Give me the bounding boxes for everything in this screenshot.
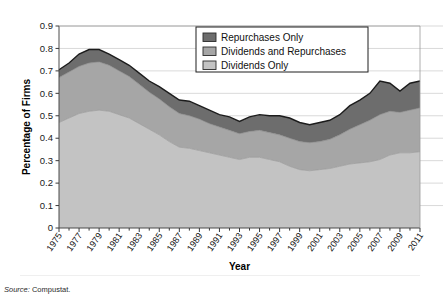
figure-container: 00.10.20.30.40.50.60.70.80.9Percentage o… (0, 0, 443, 305)
x-tick-label: 1999 (285, 231, 305, 253)
x-tick-label: 2001 (305, 231, 325, 253)
legend-swatch (203, 47, 216, 56)
y-tick-label: 0.7 (40, 65, 53, 76)
x-tick-label: 1979 (85, 231, 105, 253)
x-tick-label: 1981 (105, 231, 125, 253)
legend-swatch (203, 61, 216, 70)
source-label: Source: (4, 285, 30, 294)
x-tick-label: 2007 (365, 231, 385, 253)
y-tick-label: 0.5 (40, 110, 53, 121)
y-tick-label: 0.6 (40, 88, 53, 99)
x-tick-label: 1995 (245, 231, 265, 253)
y-tick-label: 0 (48, 222, 53, 233)
source-note: Source: Compustat. (4, 285, 70, 294)
x-tick-label: 1993 (225, 231, 245, 253)
x-tick-label: 2003 (325, 231, 345, 253)
x-tick-label: 1987 (165, 231, 185, 253)
x-tick-label: 1975 (44, 231, 64, 253)
stacked-area-chart: 00.10.20.30.40.50.60.70.80.9Percentage o… (0, 0, 443, 305)
y-tick-label: 0.8 (40, 43, 53, 54)
x-tick-label: 1983 (125, 231, 145, 253)
x-tick-label: 2005 (345, 231, 365, 253)
y-tick-label: 0.4 (40, 132, 53, 143)
x-axis-title: Year (229, 261, 250, 272)
source-text: Compustat. (32, 285, 70, 294)
y-axis-title: Percentage of Firms (21, 78, 32, 175)
legend-label: Dividends and Repurchases (221, 46, 346, 57)
x-tick-label: 1991 (205, 231, 225, 253)
x-tick-label: 1989 (185, 231, 205, 253)
y-tick-label: 0.9 (40, 20, 53, 31)
legend-label: Repurchases Only (221, 32, 303, 43)
x-tick-label: 1985 (145, 231, 165, 253)
x-tick-label: 2011 (406, 231, 425, 253)
x-tick-label: 2009 (385, 231, 405, 253)
legend-swatch (203, 33, 216, 42)
x-tick-label: 1997 (265, 231, 285, 253)
legend-label: Dividends Only (221, 60, 288, 71)
x-tick-label: 1977 (65, 231, 85, 253)
y-tick-label: 0.3 (40, 155, 53, 166)
y-tick-label: 0.2 (40, 177, 53, 188)
y-tick-label: 0.1 (40, 200, 53, 211)
